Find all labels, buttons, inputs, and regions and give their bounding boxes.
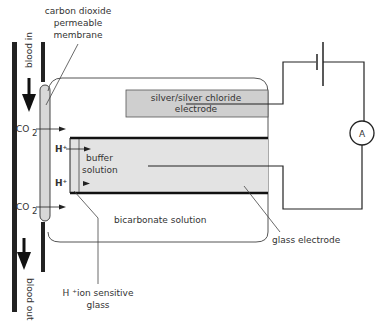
co2-top-label: CO <box>16 124 29 134</box>
bicarbonate-label: bicarbonate solution <box>114 215 206 225</box>
membrane-label-3: membrane <box>53 30 103 40</box>
co2-permeable-membrane <box>40 85 50 221</box>
arrow-icon <box>59 127 66 132</box>
battery-icon <box>317 42 323 86</box>
h-ion-top: H⁺ <box>55 144 68 154</box>
glass-electrode-label: glass electrode <box>272 235 341 245</box>
co2-electrode-diagram: blood in blood out silver/silver chlorid… <box>0 0 383 323</box>
silver-electrode-label-2: electrode <box>175 104 218 114</box>
wire-battery-ammeter <box>323 62 364 121</box>
blood-in-label: blood in <box>24 32 34 68</box>
h-ion-glass-label-2: glass <box>86 300 109 310</box>
buffer-label-2: solution <box>82 165 118 175</box>
h-ion-bottom: H⁺ <box>55 178 68 188</box>
membrane-leader <box>46 44 78 105</box>
arrow-icon <box>59 205 66 210</box>
vessel-wall-right-lower <box>41 222 45 272</box>
silver-electrode-label-1: silver/silver chloride <box>151 93 242 103</box>
h-ion-glass-label-1: H ⁺ion sensitive <box>63 288 134 298</box>
blood-out-arrow-icon <box>17 238 31 270</box>
blood-out-label: blood out <box>25 278 35 321</box>
vessel-wall-left <box>12 42 17 312</box>
co2-bottom-label: CO <box>16 202 29 212</box>
co2-top-sub: 2 <box>32 128 37 138</box>
blood-in-arrow-icon <box>22 78 36 112</box>
membrane-label-1: carbon dioxide <box>45 6 112 16</box>
co2-bottom-sub: 2 <box>32 206 37 216</box>
ammeter-icon: A <box>350 121 374 145</box>
membrane-label-2: permeable <box>54 18 103 28</box>
vessel-wall-right <box>41 42 45 82</box>
ammeter-label: A <box>359 129 366 139</box>
buffer-label-1: buffer <box>86 153 113 163</box>
h-ion-glass-leader <box>74 191 98 284</box>
